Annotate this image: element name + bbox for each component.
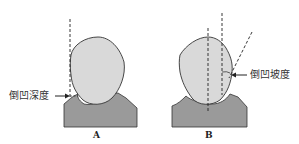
panel-caption-a: A [93, 130, 100, 140]
panel-caption-b: B [205, 130, 213, 140]
tooth-diagram-a [0, 0, 150, 144]
tooth-crown [179, 37, 232, 104]
arrow-head-icon [65, 94, 70, 99]
diagram-panel-a: 倒凹深度 A [0, 0, 150, 144]
undercut-depth-label: 倒凹深度 [9, 90, 49, 102]
undercut-slope-label: 倒凹坡度 [250, 69, 290, 81]
diagram-panel-b: 倒凹坡度 B [150, 0, 299, 144]
